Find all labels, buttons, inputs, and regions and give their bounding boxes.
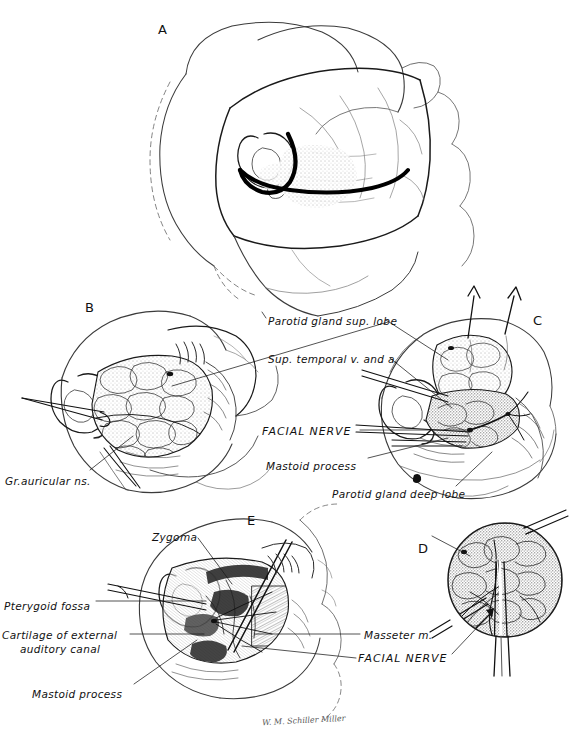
label-cartilage-line-1: Cartilage of external: [2, 629, 117, 641]
label-pterygoid-fossa: Pterygoid fossa: [4, 599, 90, 613]
panel-letter-a: A: [158, 22, 167, 37]
panel-e-artwork: [108, 504, 341, 720]
panel-b-artwork: [22, 311, 278, 492]
label-parotid-gland-deep-lobe: Parotid gland deep lobe: [332, 487, 465, 501]
label-mastoid-process-panel-c: Mastoid process: [266, 459, 356, 473]
panel-a-artwork: [150, 22, 474, 316]
panel-d-artwork: [430, 510, 568, 676]
label-parotid-gland-sup-lobe: Parotid gland sup. lobe: [268, 314, 397, 328]
panel-letter-e: E: [247, 513, 256, 528]
surgical-atlas-plate: A B C D E Parotid gland sup. lobe Sup. t…: [0, 0, 573, 747]
panel-letter-b: B: [85, 300, 94, 315]
label-mastoid-process-panel-e: Mastoid process: [32, 687, 122, 701]
label-masseter-muscle: Masseter m.: [364, 628, 433, 642]
label-facial-nerve-panel-e: FACIAL NERVE: [358, 652, 447, 667]
label-facial-nerve-panel-c: FACIAL NERVE: [262, 425, 351, 440]
label-zygoma: Zygoma: [152, 530, 197, 544]
deep-lobe-marker-dot: [413, 474, 421, 483]
panel-letter-c: C: [533, 313, 543, 328]
panel-letter-d: D: [418, 541, 429, 556]
label-cartilage-line-2: auditory canal: [2, 642, 152, 656]
label-cartilage-external-auditory-canal: Cartilage of external auditory canal: [2, 628, 152, 656]
label-sup-temporal-vein-artery: Sup. temporal v. and a.: [268, 352, 399, 366]
label-great-auricular-nerve: Gr.auricular ns.: [5, 474, 91, 488]
